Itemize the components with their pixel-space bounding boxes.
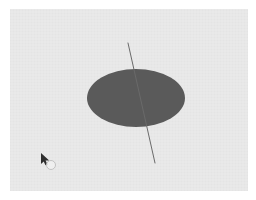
viewport: [0, 0, 256, 200]
canvas-texture: [10, 9, 248, 191]
render-canvas[interactable]: [10, 9, 248, 191]
